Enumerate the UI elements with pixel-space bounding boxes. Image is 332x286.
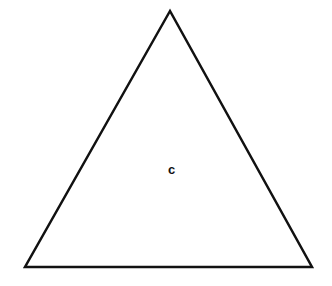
- triangle-diagram: [0, 0, 332, 286]
- center-label: c: [168, 163, 175, 176]
- diagram-canvas: c: [0, 0, 332, 286]
- triangle-shape: [25, 11, 312, 267]
